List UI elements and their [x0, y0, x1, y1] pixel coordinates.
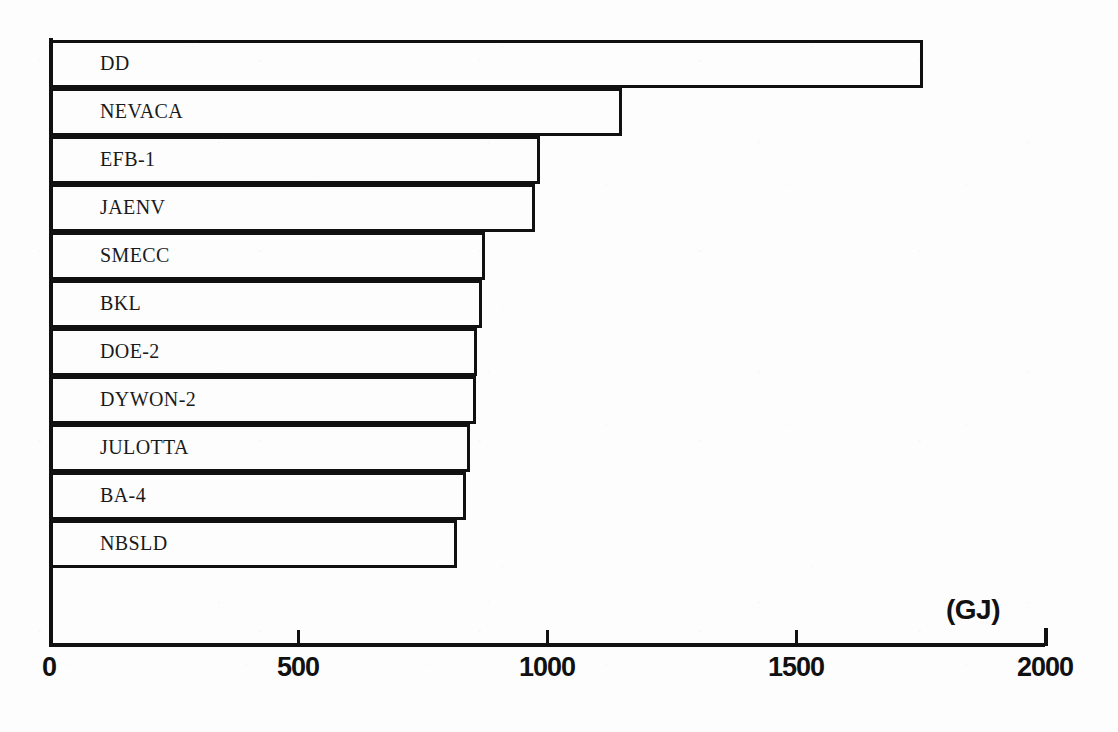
bar-category-label: JAENV	[100, 196, 165, 219]
y-axis-line	[49, 38, 53, 647]
bar-row: NBSLD	[49, 520, 457, 568]
bar-category-label: JULOTTA	[100, 436, 189, 459]
bar-row: BKL	[49, 280, 482, 328]
bar-category-label: NEVACA	[100, 100, 183, 123]
x-tick-mark	[297, 630, 300, 644]
bar-category-label: SMECC	[100, 244, 170, 267]
bar-category-label: DYWON-2	[100, 388, 196, 411]
bar-row: DOE-2	[49, 328, 477, 376]
x-tick-mark	[546, 630, 549, 644]
bar-row: JAENV	[49, 184, 535, 232]
bar-row: EFB-1	[49, 136, 540, 184]
bar-row: NEVACA	[49, 88, 622, 136]
bar-category-label: BKL	[100, 292, 141, 315]
bar-row: BA-4	[49, 472, 466, 520]
bar-row: JULOTTA	[49, 424, 470, 472]
bar-category-label: DD	[100, 52, 130, 75]
bar-category-label: NBSLD	[100, 532, 168, 555]
bar-category-label: EFB-1	[100, 148, 155, 171]
bar-row: SMECC	[49, 232, 485, 280]
x-tick-mark	[1044, 628, 1048, 646]
bar-row: DYWON-2	[49, 376, 476, 424]
chart-figure: DDNEVACAEFB-1JAENVSMECCBKLDOE-2DYWON-2JU…	[0, 0, 1118, 732]
x-axis-unit-label: (GJ)	[946, 594, 1000, 626]
x-tick-label: 500	[277, 652, 319, 683]
bar-category-label: BA-4	[100, 484, 146, 507]
bar-row: DD	[49, 40, 923, 88]
x-tick-label: 1500	[768, 652, 824, 683]
x-tick-mark	[795, 630, 798, 644]
x-tick-label: 2000	[1017, 652, 1073, 683]
x-tick-label: 0	[42, 652, 56, 683]
bar-category-label: DOE-2	[100, 340, 160, 363]
plot-area: DDNEVACAEFB-1JAENVSMECCBKLDOE-2DYWON-2JU…	[0, 0, 1118, 732]
x-tick-label: 1000	[519, 652, 575, 683]
